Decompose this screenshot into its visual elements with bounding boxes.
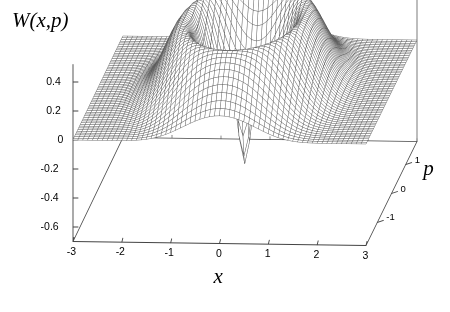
z-tick-0: 0 <box>57 134 63 145</box>
surface-plot-canvas <box>0 0 450 312</box>
wigner-function-figure: W(x,p) x p 0.40.20-0.2-0.4-0.6 -3-2-1012… <box>0 0 450 312</box>
z-tick--0.2: -0.2 <box>41 163 59 174</box>
x-axis-title: x <box>214 264 223 289</box>
plot-title: W(x,p) <box>12 8 69 33</box>
x-tick-3: 3 <box>362 250 368 261</box>
x-tick--1: -1 <box>164 247 173 258</box>
x-tick-2: 2 <box>314 249 320 260</box>
z-tick-0.2: 0.2 <box>46 105 61 116</box>
x-tick--2: -2 <box>116 246 125 257</box>
p-axis-title: p <box>423 156 434 181</box>
x-tick--3: -3 <box>67 246 76 257</box>
z-tick--0.4: -0.4 <box>41 192 59 203</box>
z-tick-0.4: 0.4 <box>46 76 61 87</box>
p-tick-0: 0 <box>401 183 406 194</box>
p-tick-1: 1 <box>415 154 420 165</box>
x-tick-1: 1 <box>265 248 271 259</box>
p-tick--1: -1 <box>386 211 394 222</box>
z-tick--0.6: -0.6 <box>41 221 59 232</box>
x-tick-0: 0 <box>216 248 222 259</box>
